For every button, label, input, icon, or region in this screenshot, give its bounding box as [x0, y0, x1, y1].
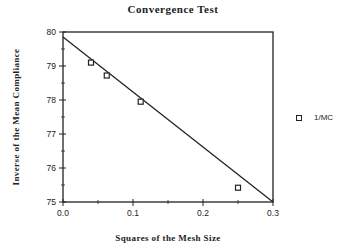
data-point-marker	[104, 73, 109, 78]
fit-line	[63, 37, 273, 202]
y-tick-label: 79	[47, 61, 57, 71]
data-point-marker	[89, 60, 94, 65]
legend: 1/MC	[296, 113, 333, 122]
y-tick-label: 76	[47, 163, 57, 173]
square-marker-icon	[296, 115, 302, 121]
x-tick-label: 0.2	[197, 208, 209, 218]
y-tick-label: 75	[47, 197, 57, 207]
legend-label: 1/MC	[314, 113, 333, 122]
data-point-marker	[236, 185, 241, 190]
x-tick-label: 0.0	[57, 208, 69, 218]
y-tick-label: 80	[47, 27, 57, 37]
plot-area: 7576777879800.00.10.20.3	[0, 0, 346, 250]
y-tick-label: 78	[47, 95, 57, 105]
data-point-marker	[138, 99, 143, 104]
y-tick-label: 77	[47, 129, 57, 139]
x-tick-label: 0.3	[267, 208, 279, 218]
x-tick-label: 0.1	[127, 208, 139, 218]
